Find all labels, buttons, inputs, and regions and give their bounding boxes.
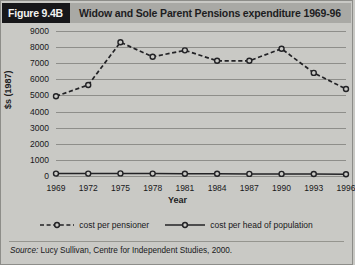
x-axis-title: Year	[1, 195, 354, 205]
figure-header: Figure 9.4B Widow and Sole Parent Pensio…	[2, 3, 351, 23]
data-point-marker	[215, 58, 220, 63]
figure-title: Widow and Sole Parent Pensions expenditu…	[79, 7, 341, 19]
data-point-marker	[311, 172, 316, 177]
dashed-line-swatch-icon	[40, 220, 74, 230]
data-point-marker	[86, 171, 91, 176]
data-point-marker	[247, 171, 252, 176]
series-line-1	[56, 173, 346, 174]
data-point-marker	[54, 94, 59, 99]
data-point-marker	[150, 171, 155, 176]
plot-area: $s (1987) 900080007000600050004000300020…	[1, 23, 354, 203]
legend-label-cost-per-head: cost per head of population	[210, 220, 313, 230]
x-tick-label: 1975	[111, 183, 130, 193]
data-point-marker	[118, 171, 123, 176]
x-tick-label: 1972	[79, 183, 98, 193]
x-tick-label: 1987	[240, 183, 259, 193]
data-point-marker	[182, 171, 187, 176]
legend-label-cost-per-pensioner: cost per pensioner	[79, 220, 149, 230]
source-prefix: Source:	[10, 246, 38, 255]
data-point-marker	[311, 70, 316, 75]
x-tick-label: 1978	[143, 183, 162, 193]
data-point-marker	[118, 40, 123, 45]
source-caption: Source: Lucy Sullivan, Centre for Indepe…	[10, 246, 232, 255]
figure-number-badge: Figure 9.4B	[2, 3, 70, 23]
data-point-marker	[215, 171, 220, 176]
data-point-marker	[247, 58, 252, 63]
data-point-marker	[279, 171, 284, 176]
data-point-marker	[54, 171, 59, 176]
legend-item-cost-per-head: cost per head of population	[165, 220, 313, 230]
data-point-marker	[279, 46, 284, 51]
x-tick-label: 1981	[175, 183, 194, 193]
series-line-0	[56, 42, 346, 96]
x-tick-label: 1990	[272, 183, 291, 193]
data-point-marker	[150, 54, 155, 59]
x-tick-label: 1993	[304, 183, 323, 193]
x-tick-label: 1996	[337, 183, 355, 193]
source-divider	[9, 241, 344, 242]
data-point-marker	[86, 82, 91, 87]
legend-item-cost-per-pensioner: cost per pensioner	[40, 220, 149, 230]
chart-legend: cost per pensioner cost per head of popu…	[1, 220, 352, 230]
x-tick-label: 1969	[47, 183, 66, 193]
series-layer	[1, 23, 354, 203]
solid-line-swatch-icon	[165, 220, 205, 230]
x-tick-label: 1984	[208, 183, 227, 193]
source-text: Lucy Sullivan, Centre for Independent St…	[41, 246, 233, 255]
data-point-marker	[344, 87, 349, 92]
data-point-marker	[344, 172, 349, 177]
data-point-marker	[182, 48, 187, 53]
